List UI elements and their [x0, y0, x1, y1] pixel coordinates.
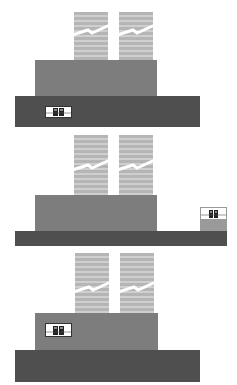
people-inset — [45, 323, 72, 337]
people-icon — [201, 208, 226, 219]
break-line-icon — [68, 155, 160, 177]
mid-block — [35, 195, 157, 231]
people-inset — [200, 207, 227, 220]
mid-block — [35, 60, 157, 96]
base-block — [15, 231, 227, 246]
people-icon — [46, 107, 71, 117]
people-icon — [46, 324, 71, 336]
people-inset — [45, 106, 72, 118]
right-stack — [200, 219, 227, 231]
base-block — [15, 96, 200, 127]
base-block — [15, 350, 200, 382]
break-line-icon — [68, 20, 160, 42]
break-line-icon — [69, 277, 161, 299]
